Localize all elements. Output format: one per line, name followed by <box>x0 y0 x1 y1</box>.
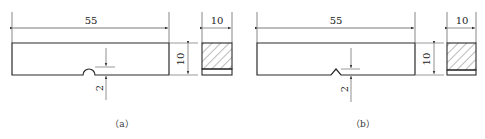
cross-section-hatched <box>202 43 232 69</box>
notch-depth-label: 2 <box>94 85 105 91</box>
length-label: 55 <box>85 15 98 26</box>
notch-depth-label: 2 <box>339 86 350 92</box>
panel-b: 55 2 10 10 （b） <box>257 12 476 129</box>
section-width-label: 10 <box>211 15 224 26</box>
section-width-label: 10 <box>456 15 469 26</box>
specimen-bar-u-notch <box>12 43 169 75</box>
length-label: 55 <box>330 15 343 26</box>
specimen-bar-v-notch <box>257 43 415 75</box>
cross-section-hatched <box>447 43 476 70</box>
height-label: 10 <box>421 53 432 66</box>
caption-a: （a） <box>110 119 133 129</box>
panel-a: 55 2 10 10 （a） <box>12 12 232 129</box>
height-label: 10 <box>175 53 186 66</box>
specimen-drawing: 55 2 10 10 （a） 55 2 10 <box>0 0 485 139</box>
caption-b: （b） <box>351 119 375 129</box>
